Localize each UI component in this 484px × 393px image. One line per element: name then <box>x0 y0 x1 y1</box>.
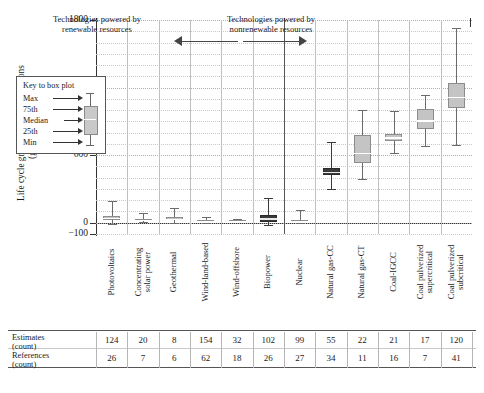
table-cell: 21 <box>378 335 409 345</box>
y-axis-tick-label: 0 <box>44 217 88 227</box>
legend-title: Key to box plot <box>23 81 74 90</box>
table-cell: 55 <box>315 335 346 345</box>
table-cell: 120 <box>441 335 472 345</box>
legend-arrow-max <box>53 95 83 102</box>
table-hline <box>8 348 476 349</box>
table-cell: 27 <box>284 353 315 363</box>
legend-arrow-25th <box>53 128 83 135</box>
table-cell: 32 <box>221 335 252 345</box>
legend-label-max: Max <box>23 94 38 103</box>
table-row-label: Estimates(count) <box>12 333 76 351</box>
legend-item-75th: 75th <box>23 105 38 114</box>
counts-table: Estimates(count)124208154321029955222117… <box>8 330 476 370</box>
boxplot-chart: Life cycle greenhouse gas emissions (gCO… <box>0 0 484 393</box>
arrow-right-nonrenewable <box>243 36 307 46</box>
legend-label-min: Min <box>23 138 37 147</box>
table-cell: 124 <box>96 335 127 345</box>
legend-key-box: Key to box plot Max 75th Median 25th <box>16 76 106 154</box>
annotation-renewable: Technologies powered by renewable resour… <box>22 14 172 34</box>
x-axis-label-wind-land-based: Wind-land-based <box>190 224 221 320</box>
table-cell: 18 <box>221 353 252 363</box>
annotation-nonrenewable: Technologies powered by nonrenewable res… <box>196 14 346 34</box>
table-cell: 26 <box>253 353 284 363</box>
legend-label-25th: 25th <box>23 127 38 136</box>
table-cell: 6 <box>159 353 190 363</box>
annotation-nonrenewable-line1: Technologies powered by <box>196 14 346 24</box>
table-cell: 20 <box>127 335 158 345</box>
table-cell: 102 <box>253 335 284 345</box>
x-axis-label-photovoltaics: Photovoltaics <box>96 224 127 320</box>
annotation-renewable-line2: renewable resources <box>22 24 172 34</box>
table-cell: 26 <box>96 353 127 363</box>
table-cell: 16 <box>378 353 409 363</box>
table-hline <box>8 367 476 368</box>
table-cell: 8 <box>159 335 190 345</box>
cap-max <box>452 28 461 29</box>
median-line <box>448 97 465 98</box>
x-axis-label-wind-offshore: Wind-offshore <box>221 224 252 320</box>
legend-item-median: Median <box>23 116 48 125</box>
y-axis-tick <box>90 155 96 156</box>
legend-item-max: Max <box>23 94 38 103</box>
table-cell: 17 <box>409 335 440 345</box>
y-axis-tick-label: −100 <box>44 228 88 238</box>
table-cell: 11 <box>347 353 378 363</box>
x-axis-label-concentrating-solar-power: Concentratingsolar power <box>127 224 158 320</box>
table-cell: 154 <box>190 335 221 345</box>
table-hline <box>8 330 476 331</box>
cap-min <box>452 145 461 146</box>
x-axis-label-natural-gas-cc: Natural gas-CC <box>315 224 346 320</box>
legend-arrow-median <box>64 117 83 124</box>
arrow-left-renewable <box>174 36 238 46</box>
annotation-renewable-line1: Technologies powered by <box>22 14 172 24</box>
plot-area <box>96 20 472 234</box>
x-axis-label-geothermal: Geothermal <box>159 224 190 320</box>
table-row-label: References(count) <box>12 351 76 369</box>
x-axis-label-biopower: Biopower <box>253 224 284 320</box>
table-column-separator <box>472 332 473 368</box>
table-cell: 99 <box>284 335 315 345</box>
table-cell: 62 <box>190 353 221 363</box>
annotation-nonrenewable-line2: nonrenewable resources <box>196 24 346 34</box>
x-axis-label-coal-pulverized-subcritical: Coal pulverizedsubcritical <box>441 224 472 320</box>
x-axis-labels: PhotovoltaicsConcentratingsolar powerGeo… <box>96 224 472 320</box>
legend-arrow-min <box>53 139 83 146</box>
boxplot-coal-pulverized-subcritical[interactable] <box>96 20 472 234</box>
x-axis-label-natural-gas-ct: Natural gas-CT <box>347 224 378 320</box>
legend-boxplot-glyph <box>83 93 97 146</box>
table-cell: 7 <box>409 353 440 363</box>
table-cell: 41 <box>441 353 472 363</box>
table-cell: 7 <box>127 353 158 363</box>
table-cell: 34 <box>315 353 346 363</box>
legend-arrow-75th <box>53 106 83 113</box>
table-cell: 22 <box>347 335 378 345</box>
box-iqr <box>448 83 465 108</box>
x-axis-label-nuclear: Nuclear <box>284 224 315 320</box>
x-axis-label-coal-pulverized-supercritical: Coal pulverizedsupercritical <box>409 224 440 320</box>
legend-item-25th: 25th <box>23 127 38 136</box>
legend-item-min: Min <box>23 138 37 147</box>
x-axis-label-coal-igcc: Coal-IGCC <box>378 224 409 320</box>
legend-label-median: Median <box>23 116 48 125</box>
legend-label-75th: 75th <box>23 105 38 114</box>
